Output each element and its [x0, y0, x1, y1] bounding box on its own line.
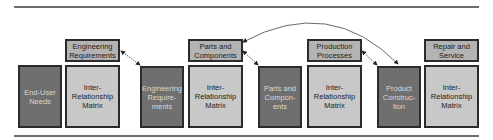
curved-arrow-product-to-parts [243, 23, 398, 64]
connector-arrows [0, 0, 493, 140]
arrow-parts [243, 51, 258, 65]
arrow-production [362, 51, 377, 65]
arrow-eng-req [121, 51, 140, 65]
